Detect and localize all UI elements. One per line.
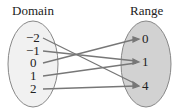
domain-title: Domain bbox=[12, 3, 54, 19]
arrow-2-to-4 bbox=[43, 86, 136, 89]
range-value: 0 bbox=[142, 31, 149, 47]
domain-value: 2 bbox=[30, 81, 37, 97]
range-value: 1 bbox=[142, 54, 149, 70]
range-value: 4 bbox=[142, 78, 149, 94]
range-title: Range bbox=[130, 3, 163, 19]
